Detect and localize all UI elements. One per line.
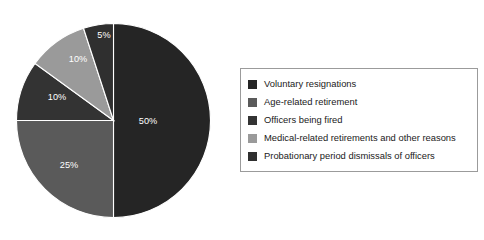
- legend-swatch-icon: [248, 80, 257, 89]
- legend-swatch-icon: [248, 134, 257, 143]
- pie-chart: 50%25%10%10%5%: [16, 23, 211, 218]
- legend-item-label: Probationary period dismissals of office…: [264, 151, 435, 160]
- legend-item[interactable]: Officers being fired: [248, 111, 477, 129]
- pie-slice: [114, 24, 211, 218]
- legend-item-label: Voluntary resignations: [264, 79, 356, 88]
- chart-legend: Voluntary resignationsAge-related retire…: [240, 68, 478, 172]
- legend-item[interactable]: Probationary period dismissals of office…: [248, 147, 477, 165]
- legend-item-label: Age-related retirement: [264, 97, 357, 106]
- legend-item[interactable]: Age-related retirement: [248, 93, 477, 111]
- pie-chart-figure: 50%25%10%10%5% Voluntary resignationsAge…: [0, 0, 484, 240]
- legend-item[interactable]: Medical-related retirements and other re…: [248, 129, 477, 147]
- pie-slice-value-label: 50%: [139, 116, 157, 126]
- pie-slice-value-label: 5%: [97, 30, 110, 40]
- legend-item-label: Officers being fired: [264, 115, 343, 124]
- pie-chart-svg: 50%25%10%10%5%: [16, 23, 211, 218]
- legend-item-label: Medical-related retirements and other re…: [264, 133, 456, 142]
- pie-slice-value-label: 10%: [48, 92, 66, 102]
- legend-item[interactable]: Voluntary resignations: [248, 75, 477, 93]
- legend-swatch-icon: [248, 116, 257, 125]
- pie-slice-value-label: 10%: [69, 54, 87, 64]
- legend-swatch-icon: [248, 98, 257, 107]
- pie-slice-value-label: 25%: [60, 160, 78, 170]
- legend-swatch-icon: [248, 152, 257, 161]
- pie-slice-group: [17, 24, 211, 218]
